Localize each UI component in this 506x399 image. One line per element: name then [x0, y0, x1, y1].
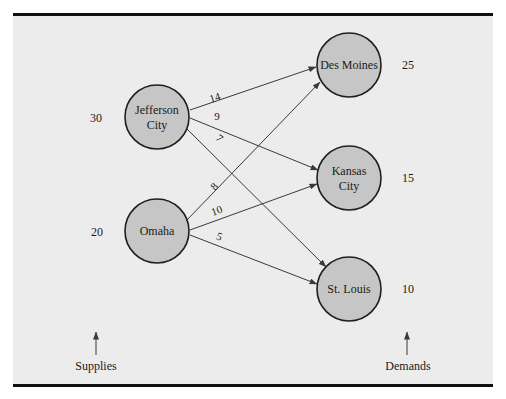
demand-node-st-louis: St. Louis: [317, 257, 381, 321]
supply-node-jefferson-city: Jefferson City: [125, 85, 189, 149]
supplies-label: Supplies: [75, 359, 117, 373]
demands-label: Demands: [385, 359, 431, 373]
node-label: Omaha: [140, 224, 175, 238]
demand-value-kansas-city: 15: [402, 171, 414, 185]
node-circle: [125, 85, 189, 149]
demand-node-des-moines: Des Moines: [317, 33, 381, 97]
supply-node-omaha: Omaha: [125, 199, 189, 263]
node-label: City: [147, 118, 168, 132]
bottom-rule: [13, 384, 493, 387]
node-label: Des Moines: [320, 58, 378, 72]
transportation-network-diagram: 14 9 7 8 10 5 Jefferson City 30 Omaha 20…: [0, 0, 506, 399]
node-label: Jefferson: [135, 103, 179, 117]
demand-value-des-moines: 25: [402, 58, 414, 72]
demand-value-st-louis: 10: [402, 282, 414, 296]
node-label: City: [339, 179, 360, 193]
node-label: Kansas: [332, 164, 367, 178]
node-label: St. Louis: [327, 282, 371, 296]
node-circle: [317, 146, 381, 210]
demand-node-kansas-city: Kansas City: [317, 146, 381, 210]
panel-background: [13, 15, 493, 385]
cost-label: 9: [214, 110, 220, 122]
top-rule: [13, 13, 493, 16]
supply-value-jefferson-city: 30: [90, 111, 102, 125]
supply-value-omaha: 20: [91, 225, 103, 239]
